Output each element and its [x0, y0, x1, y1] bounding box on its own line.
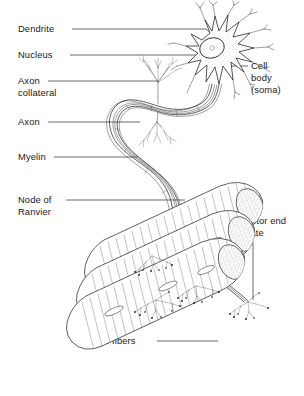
label-myelin: Myelin: [18, 151, 46, 162]
label-node-of-ranvier-line1: Node of: [18, 194, 52, 205]
label-axon-collateral-line2: collateral: [18, 87, 57, 98]
label-axon-collateral-line1: Axon: [18, 75, 40, 86]
label-cell-body-line2: body: [251, 72, 272, 83]
label-cell-body-line3: (soma): [251, 84, 281, 95]
label-dendrite: Dendrite: [18, 23, 54, 34]
leader-dendrite: [72, 29, 212, 34]
label-nucleus: Nucleus: [18, 49, 53, 60]
label-axon: Axon: [18, 116, 40, 127]
neuron-diagram: Dendrite Nucleus Axon collateral Axon My…: [0, 0, 304, 396]
muscle-fiber-bundle: [66, 182, 268, 350]
label-node-of-ranvier-line2: Ranvier: [18, 206, 51, 217]
axon-collateral-branch: [139, 56, 182, 147]
